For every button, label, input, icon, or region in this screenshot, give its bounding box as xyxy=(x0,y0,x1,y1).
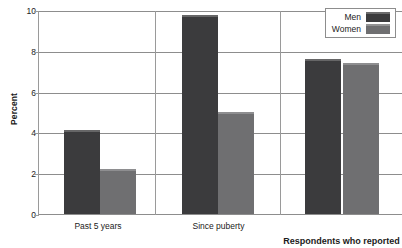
y-tick-label-4: 4 xyxy=(14,129,36,138)
y-tick-mark-10 xyxy=(34,11,38,12)
y-tick-label-8: 8 xyxy=(14,47,36,56)
bar-women-respondents-who-reported xyxy=(343,63,379,214)
x-axis-baseline xyxy=(39,214,402,215)
x-axis-label-past-5-years: Past 5 years xyxy=(40,221,156,231)
bar-chart: Percent 10 8 6 4 2 0 Past 5 years xyxy=(0,0,402,248)
bar-men-since-puberty xyxy=(182,15,218,214)
x-axis-label-since-puberty: Since puberty xyxy=(156,221,281,231)
y-tick-mark-0 xyxy=(34,215,38,216)
bar-women-past-5-years xyxy=(100,169,136,214)
y-axis-tick-labels: 10 8 6 4 2 0 xyxy=(0,0,36,248)
x-axis-label-respondents-who-reported: Respondents who reported xyxy=(281,236,402,246)
plot-area xyxy=(39,11,402,215)
group-divider-1 xyxy=(155,11,156,215)
y-tick-label-6: 6 xyxy=(14,88,36,97)
y-tick-mark-2 xyxy=(34,174,38,175)
bar-men-past-5-years xyxy=(64,130,100,214)
legend-swatch-women xyxy=(366,24,390,34)
legend-label-women: Women xyxy=(332,24,361,34)
legend-swatches xyxy=(366,12,390,34)
y-tick-label-10: 10 xyxy=(14,7,36,16)
gridline-8 xyxy=(39,52,402,53)
y-tick-label-2: 2 xyxy=(14,170,36,179)
legend: Men Women xyxy=(325,8,396,38)
legend-label-men: Men xyxy=(332,12,361,22)
legend-swatch-men xyxy=(366,12,390,22)
y-tick-mark-8 xyxy=(34,52,38,53)
bar-women-since-puberty xyxy=(218,112,254,214)
y-tick-mark-6 xyxy=(34,93,38,94)
group-divider-2 xyxy=(280,11,281,215)
y-tick-mark-4 xyxy=(34,133,38,134)
bar-men-respondents-who-reported xyxy=(305,59,341,214)
legend-labels: Men Women xyxy=(332,12,361,34)
y-tick-label-0: 0 xyxy=(14,211,36,220)
